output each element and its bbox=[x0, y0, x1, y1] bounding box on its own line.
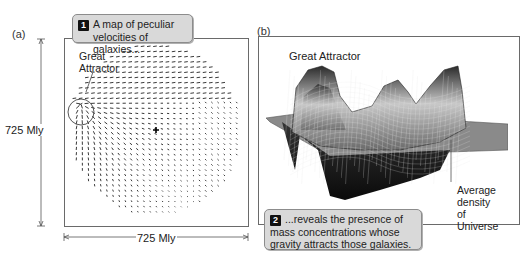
callout-2: 2...reveals the presence of mass concent… bbox=[264, 209, 422, 250]
callout-text: ...reveals the presence of bbox=[285, 213, 403, 225]
great-attractor-label-b: Great Attractor bbox=[289, 50, 361, 62]
annotation-line: Average bbox=[457, 184, 508, 196]
callout-text: mass concentrations whose bbox=[270, 226, 415, 238]
step-number-badge: 2 bbox=[270, 215, 281, 226]
annotation-line: density bbox=[457, 196, 508, 208]
callout-text: gravity attracts those galaxies. bbox=[270, 238, 415, 250]
average-density-label: Average density of Universe bbox=[457, 184, 508, 232]
annotation-line: of Universe bbox=[457, 208, 508, 232]
